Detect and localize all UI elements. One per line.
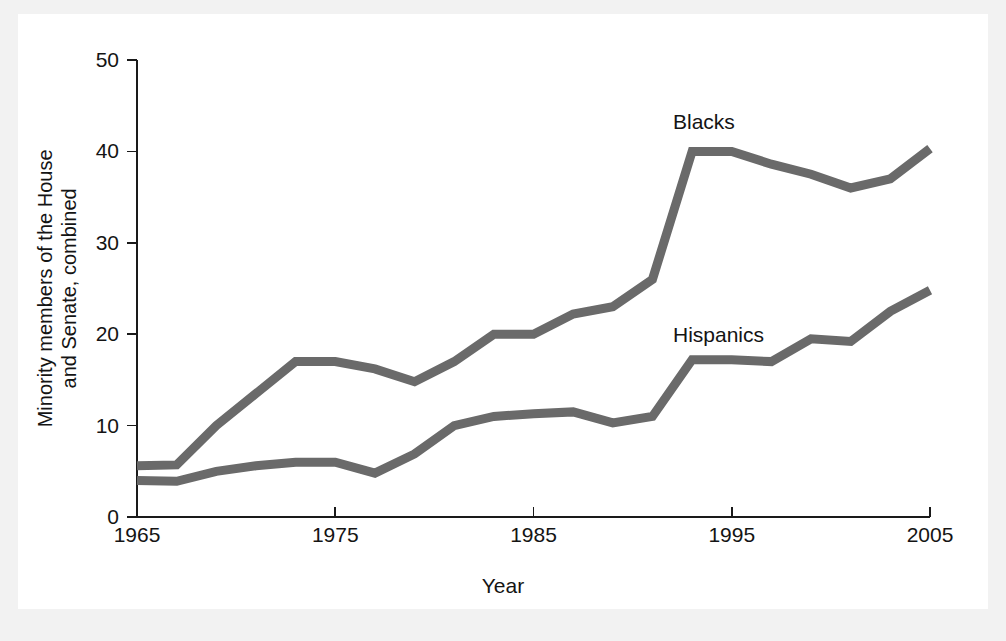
- x-tick-marks: [137, 507, 930, 517]
- y-tick-marks: [127, 60, 137, 517]
- chart-canvas: [18, 14, 988, 609]
- x-tick-label: 2005: [885, 524, 975, 545]
- figure-card: 01020304050 19651975198519952005 Minorit…: [18, 14, 988, 609]
- axis-group: [137, 60, 930, 517]
- series-line-hispanics: [137, 290, 930, 481]
- y-axis-title: Minority members of the House and Senate…: [33, 53, 82, 523]
- x-axis-title: Year: [18, 574, 988, 598]
- y-axis-title-line-1: Minority members of the House: [33, 53, 57, 523]
- x-tick-label: 1995: [687, 524, 777, 545]
- y-axis-title-line-2: and Senate, combined: [57, 53, 81, 523]
- x-tick-label: 1985: [489, 524, 579, 545]
- x-tick-label: 1965: [92, 524, 182, 545]
- x-tick-label: 1975: [290, 524, 380, 545]
- series-line-blacks: [137, 149, 930, 466]
- figure-page: 01020304050 19651975198519952005 Minorit…: [0, 0, 1006, 641]
- series-label-hispanics: Hispanics: [673, 323, 764, 347]
- line-chart: 01020304050 19651975198519952005 Minorit…: [18, 14, 988, 609]
- series-group: [137, 149, 930, 482]
- series-label-blacks: Blacks: [673, 110, 735, 134]
